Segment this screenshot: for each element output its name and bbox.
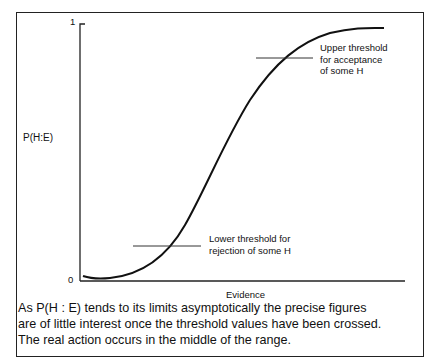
x-axis-label: Evidence [226,289,265,301]
caption-line-3: The real action occurs in the middle of … [18,332,423,348]
y-tick-bottom: 0 [68,274,73,286]
caption-line-2: are of little interest once the threshol… [18,316,423,332]
y-axis-label: P(H:E) [23,132,53,144]
y-tick-top: 1 [70,16,75,28]
upper-threshold-line-2: for acceptance [320,54,388,66]
y-axis [80,24,85,281]
caption-line-1: As P(H : E) tends to its limits asymptot… [18,300,423,316]
upper-threshold-line-1: Upper threshold [320,42,388,54]
lower-threshold-label: Lower threshold for rejection of some H [209,233,291,256]
lower-threshold-line-1: Lower threshold for [209,233,291,245]
lower-threshold-line-2: rejection of some H [209,245,291,257]
upper-threshold-label: Upper threshold for acceptance of some H [320,42,388,77]
figure-caption: As P(H : E) tends to its limits asymptot… [18,300,423,348]
upper-threshold-line-3: of some H [320,65,388,77]
